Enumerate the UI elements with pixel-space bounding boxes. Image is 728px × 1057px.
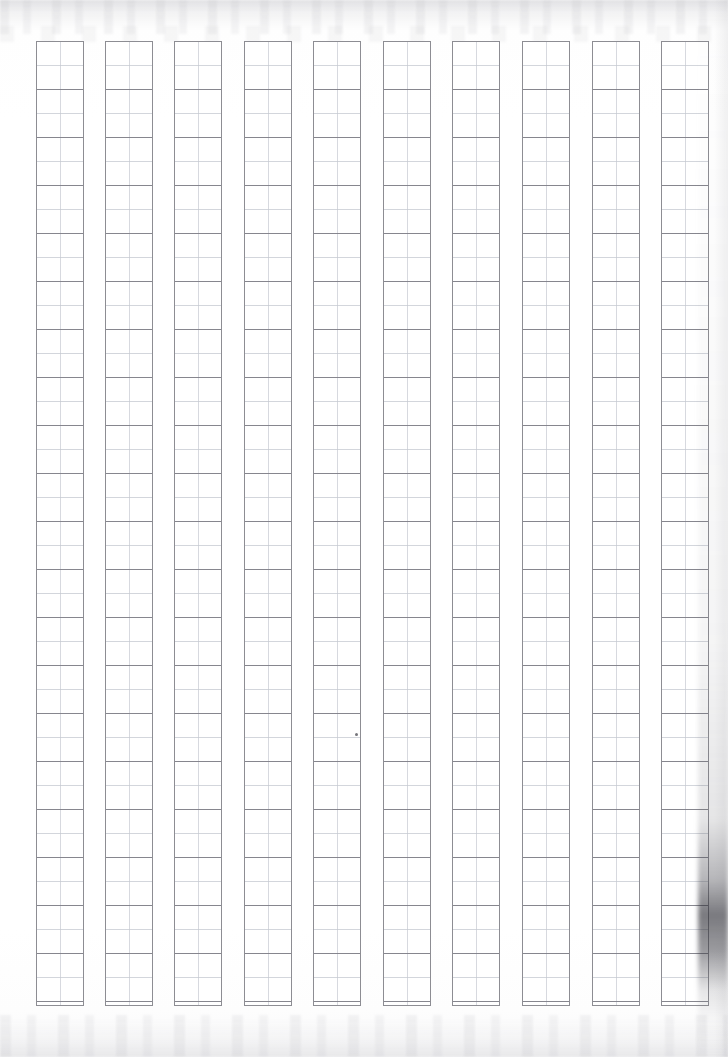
- cell-divider-line: [245, 881, 291, 882]
- manuscript-column-8[interactable]: [522, 41, 570, 1006]
- cell-divider-line: [593, 689, 639, 690]
- cell-divider-line: [314, 353, 360, 354]
- block-divider-line: [37, 377, 83, 378]
- cell-divider-line: [106, 929, 152, 930]
- cell-divider-line: [453, 65, 499, 66]
- manuscript-column-6[interactable]: [383, 41, 431, 1006]
- manuscript-column-2[interactable]: [105, 41, 153, 1006]
- block-divider-line: [384, 521, 430, 522]
- cell-divider-line: [593, 785, 639, 786]
- cell-divider-line: [37, 449, 83, 450]
- cell-divider-line: [523, 785, 569, 786]
- block-divider-line: [175, 89, 221, 90]
- cell-divider-line: [523, 881, 569, 882]
- cell-divider-line: [523, 497, 569, 498]
- cell-divider-line: [453, 593, 499, 594]
- block-divider-line: [314, 953, 360, 954]
- block-divider-line: [384, 713, 430, 714]
- cell-divider-line: [593, 641, 639, 642]
- cell-divider-line: [593, 593, 639, 594]
- block-divider-line: [593, 857, 639, 858]
- block-divider-line: [593, 809, 639, 810]
- block-divider-line: [314, 185, 360, 186]
- cell-divider-line: [175, 929, 221, 930]
- cell-divider-line: [106, 65, 152, 66]
- cell-divider-line: [106, 401, 152, 402]
- block-divider-line: [523, 185, 569, 186]
- cell-divider-line: [175, 305, 221, 306]
- block-divider-line: [384, 617, 430, 618]
- cell-divider-line: [245, 737, 291, 738]
- cell-divider-line: [175, 881, 221, 882]
- ink-speck: [355, 733, 358, 736]
- block-divider-line: [106, 281, 152, 282]
- cell-divider-line: [384, 65, 430, 66]
- cell-divider-line: [314, 689, 360, 690]
- manuscript-column-1[interactable]: [36, 41, 84, 1006]
- block-divider-line: [314, 857, 360, 858]
- block-divider-line: [314, 905, 360, 906]
- block-divider-line: [106, 137, 152, 138]
- block-divider-line: [453, 857, 499, 858]
- cell-divider-line: [37, 353, 83, 354]
- block-divider-line: [106, 377, 152, 378]
- manuscript-column-3[interactable]: [174, 41, 222, 1006]
- cell-divider-line: [523, 305, 569, 306]
- cell-divider-line: [245, 209, 291, 210]
- block-divider-line: [523, 713, 569, 714]
- cell-divider-line: [37, 257, 83, 258]
- page-edge-shadow-inner: [714, 0, 728, 1057]
- block-divider-line: [593, 425, 639, 426]
- column-center-rule: [198, 42, 199, 1005]
- block-divider-line: [453, 953, 499, 954]
- block-divider-line: [314, 425, 360, 426]
- manuscript-column-4[interactable]: [244, 41, 292, 1006]
- block-divider-line: [37, 617, 83, 618]
- cell-divider-line: [314, 881, 360, 882]
- block-divider-line: [384, 809, 430, 810]
- block-divider-line: [523, 377, 569, 378]
- block-divider-line: [453, 185, 499, 186]
- block-divider-line: [245, 137, 291, 138]
- block-divider-line: [314, 665, 360, 666]
- cell-divider-line: [384, 257, 430, 258]
- cell-divider-line: [106, 593, 152, 594]
- block-divider-line: [175, 713, 221, 714]
- block-divider-line: [245, 281, 291, 282]
- cell-divider-line: [37, 305, 83, 306]
- cell-divider-line: [453, 881, 499, 882]
- cell-divider-line: [314, 449, 360, 450]
- block-divider-line: [175, 137, 221, 138]
- cell-divider-line: [314, 593, 360, 594]
- block-divider-line: [245, 569, 291, 570]
- cell-divider-line: [593, 401, 639, 402]
- cell-divider-line: [593, 881, 639, 882]
- cell-divider-line: [245, 305, 291, 306]
- block-divider-line: [384, 425, 430, 426]
- block-divider-line: [37, 809, 83, 810]
- block-divider-line: [523, 521, 569, 522]
- cell-divider-line: [384, 689, 430, 690]
- block-divider-line: [593, 569, 639, 570]
- cell-divider-line: [106, 881, 152, 882]
- block-divider-line: [453, 617, 499, 618]
- block-divider-line: [593, 473, 639, 474]
- block-divider-line: [523, 329, 569, 330]
- block-divider-line: [384, 857, 430, 858]
- cell-divider-line: [453, 977, 499, 978]
- block-divider-line: [175, 665, 221, 666]
- cell-divider-line: [314, 929, 360, 930]
- column-center-rule: [546, 42, 547, 1005]
- block-divider-line: [384, 473, 430, 474]
- block-divider-line: [523, 281, 569, 282]
- block-divider-line: [245, 713, 291, 714]
- manuscript-column-5[interactable]: [313, 41, 361, 1006]
- block-divider-line: [175, 761, 221, 762]
- block-divider-line: [37, 761, 83, 762]
- manuscript-column-7[interactable]: [452, 41, 500, 1006]
- cell-divider-line: [453, 449, 499, 450]
- block-divider-line: [453, 521, 499, 522]
- cell-divider-line: [523, 257, 569, 258]
- block-divider-line: [384, 905, 430, 906]
- manuscript-column-9[interactable]: [592, 41, 640, 1006]
